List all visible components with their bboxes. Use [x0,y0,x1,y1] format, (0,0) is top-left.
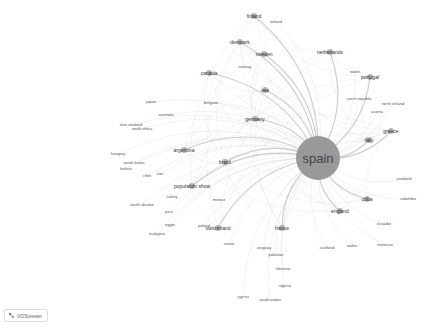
node-scotland2[interactable]: scotland [320,246,335,250]
node-austria[interactable]: austria [371,110,383,114]
node-morocco[interactable]: morocco [377,243,392,247]
node-north-ireland[interactable]: north ireland [382,102,404,106]
node-ecuador[interactable]: ecuador [377,222,391,226]
node-italy[interactable]: italy [365,138,374,143]
node-malaysia[interactable]: malaysia [149,232,165,236]
node-canada[interactable]: canada [201,71,217,76]
vosviewer-badge[interactable]: VOSviewer [4,309,48,322]
node-wales2[interactable]: wales [347,244,357,248]
node-peru[interactable]: peru [165,210,173,214]
node-denmark[interactable]: denmark [230,40,249,45]
node-slovenia[interactable]: slovenia [276,267,291,271]
network-map[interactable]: finlandirelanddenmarkswedennetherlandsno… [0,0,443,336]
node-south-africa[interactable]: south africa [132,127,153,131]
node-saudi-arabia[interactable]: saudi arabia [259,298,281,302]
node-pakistan[interactable]: pakistan [269,253,284,257]
node-cuba[interactable]: cuba [362,197,373,202]
network-edges [0,0,443,336]
node-south-ukraine[interactable]: south ukraine [130,203,154,207]
node-belgium[interactable]: belgium [204,101,218,105]
node-ireland[interactable]: ireland [270,20,282,24]
vosviewer-logo-icon [8,312,15,319]
node-greece[interactable]: greece [383,129,398,134]
node-hungary[interactable]: hungary [111,152,125,156]
node-sweden[interactable]: sweden [255,52,272,57]
node-bolivia[interactable]: bolivia [120,167,131,171]
node-argentina[interactable]: argentina [174,148,195,153]
node-turkey[interactable]: turkey [167,195,178,199]
node-finland[interactable]: finland [247,14,262,19]
node-germany[interactable]: germany [245,117,264,122]
node-scotland[interactable]: scotland [397,177,412,181]
node-france[interactable]: france [275,226,289,231]
node-japan[interactable]: japan [146,100,156,104]
node-netherlands[interactable]: netherlands [317,50,343,55]
node-spain[interactable]: spain [302,152,333,165]
node-colombia[interactable]: colombia [400,197,416,201]
node-south-korea[interactable]: south korea [124,161,145,165]
node-poland[interactable]: poland [198,224,210,228]
node-wales[interactable]: wales [350,70,360,74]
vosviewer-label: VOSviewer [17,313,42,319]
node-cyprus[interactable]: cyprus [237,295,249,299]
node-australia[interactable]: australia [158,113,173,117]
node-portugal[interactable]: portugal [361,75,379,80]
node-brazil[interactable]: brazil [219,160,231,165]
node-chile[interactable]: chile [143,174,151,178]
node-population-show[interactable]: population show [174,184,210,189]
node-iran[interactable]: iran [157,172,164,176]
node-algeria[interactable]: algeria [279,284,291,288]
node-russia[interactable]: russia [224,242,235,246]
node-egypt[interactable]: egypt [165,223,175,227]
node-uruguay[interactable]: uruguay [257,246,271,250]
node-norway[interactable]: norway [239,65,252,69]
node-england[interactable]: england [331,209,349,214]
node-mexico[interactable]: mexico [213,198,226,202]
node-czech-republic[interactable]: czech republic [346,97,372,101]
node-usa[interactable]: usa [261,88,269,93]
